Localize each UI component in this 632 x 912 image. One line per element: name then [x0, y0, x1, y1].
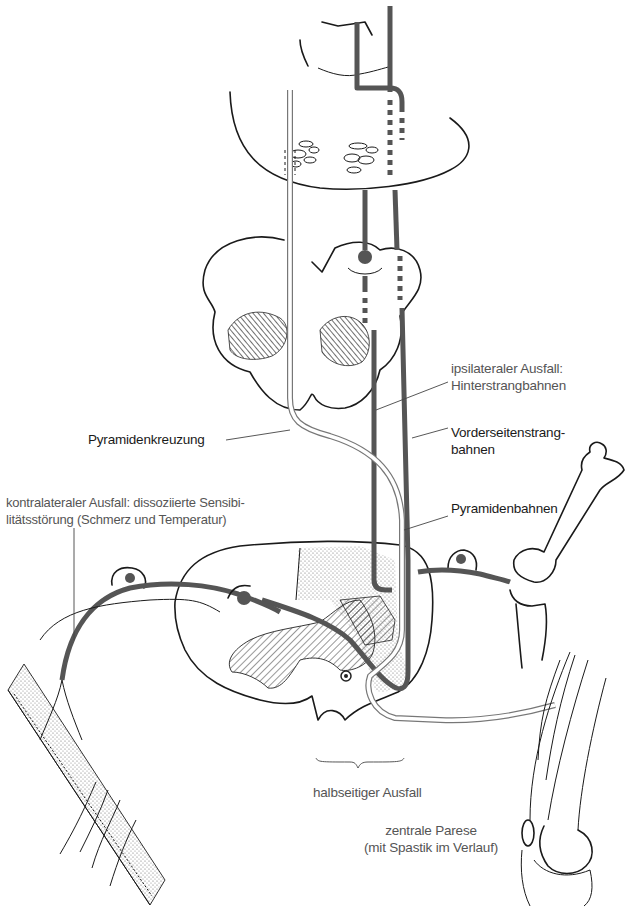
label-central-paresis-line1: zentrale Parese: [364, 822, 498, 839]
label-anterolateral-tracts: Vorderseitenstrang- bahnen: [451, 424, 565, 458]
dorsal-column-tract: [357, 22, 402, 112]
label-contralateral-line2: litätsstörung (Schmerz und Temperatur): [6, 511, 245, 528]
thigh-muscle-knee: [521, 652, 606, 906]
medulla-oblongata: [203, 237, 421, 410]
label-anterolateral-line1: Vorderseitenstrang-: [451, 424, 565, 441]
dorsal-root-ganglion-right: [418, 550, 510, 582]
medulla-nucleus-right: [320, 316, 369, 365]
label-pyramidal-tracts: Pyramidenbahnen: [451, 500, 558, 517]
label-central-paresis-line2: (mit Spastik im Verlauf): [364, 839, 498, 856]
skin-dermatome: [8, 664, 165, 905]
knee-joint-bones: [510, 442, 624, 668]
label-anterolateral-line2: bahnen: [451, 441, 565, 458]
label-contralateral-line1: kontralateraler Ausfall: dissoziierte Se…: [6, 494, 245, 511]
label-pyramidal-decussation: Pyramidenkreuzung: [88, 431, 205, 448]
label-ipsilateral-line1: ipsilateraler Ausfall:: [451, 360, 566, 377]
dorsal-root-lower-edge: [40, 599, 220, 640]
label-ipsilateral-loss: ipsilateraler Ausfall: Hinterstrangbahne…: [451, 360, 566, 394]
spinal-cord-cross-section: [175, 541, 433, 720]
medulla-nucleus-left: [228, 312, 287, 359]
gracile-nucleus-neuron: [358, 250, 372, 264]
label-ipsilateral-line2: Hinterstrangbahnen: [451, 377, 566, 394]
label-contralateral-loss: kontralateraler Ausfall: dissoziierte Se…: [6, 494, 245, 528]
thalamic-nuclei-left: [290, 141, 319, 167]
label-central-paresis: zentrale Parese (mit Spastik im Verlauf): [364, 822, 498, 856]
label-hemisection-loss: halbseitiger Ausfall: [313, 784, 422, 801]
dorsal-horn-neuron: [237, 591, 251, 605]
brainstem-thalamus: [230, 22, 469, 189]
thalamic-nuclei-right: [344, 143, 378, 173]
hemisection-bracket: [316, 758, 404, 768]
